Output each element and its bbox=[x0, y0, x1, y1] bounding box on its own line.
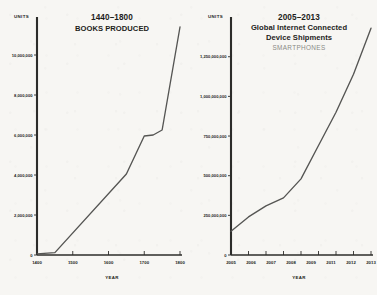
y-axis-tick-labels: 0250,000,000500,000,000750,000,0001,000,… bbox=[200, 54, 231, 257]
y-tick-label: 500,000,000 bbox=[203, 173, 227, 178]
x-tick-label: 2009 bbox=[306, 260, 316, 265]
y-tick-label: 8,000,000 bbox=[14, 93, 33, 98]
y-tick-label: 1,000,000,000 bbox=[200, 94, 227, 99]
y-tick-label: 0 bbox=[224, 253, 227, 258]
plot-area bbox=[37, 17, 182, 255]
x-tick-label: 2005 bbox=[226, 260, 236, 265]
chart-subtitle-line-1: Global Internet Connected bbox=[250, 23, 346, 32]
y-tick-label: 10,000,000 bbox=[12, 53, 33, 58]
y-tick-label: 2,000,000 bbox=[14, 213, 33, 218]
x-tick-label: 2012 bbox=[346, 260, 356, 265]
y-tick-label: 4,000,000 bbox=[14, 173, 33, 178]
series-line-0 bbox=[37, 27, 180, 254]
x-axis-tick-labels: 20052006200720082009201120122013 bbox=[226, 251, 376, 265]
x-tick-label: 1400 bbox=[32, 260, 42, 265]
chart-title: 1440–1800 bbox=[91, 13, 133, 22]
device-shipments-chart: UNITS 2005–2013 Global Internet Connecte… bbox=[189, 0, 377, 295]
chart-pair-container: UNITS 1440–1800 BOOKS PRODUCED 02,000,00… bbox=[0, 0, 377, 295]
chart-panel-books-produced: UNITS 1440–1800 BOOKS PRODUCED 02,000,00… bbox=[0, 0, 189, 295]
y-axis-caption: UNITS bbox=[208, 14, 223, 19]
x-tick-label: 2013 bbox=[366, 260, 376, 265]
y-tick-label: 6,000,000 bbox=[14, 133, 33, 138]
chart-title: 2005–2013 bbox=[278, 13, 320, 22]
y-tick-label: 250,000,000 bbox=[203, 213, 227, 218]
x-tick-label: 1800 bbox=[175, 260, 185, 265]
chart-series-caption: SMARTPHONES bbox=[272, 44, 325, 51]
books-produced-chart: UNITS 1440–1800 BOOKS PRODUCED 02,000,00… bbox=[0, 0, 189, 295]
series-line-0 bbox=[231, 28, 371, 231]
x-tick-label: 2007 bbox=[266, 260, 276, 265]
y-tick-label: 750,000,000 bbox=[203, 134, 227, 139]
x-tick-label: 1500 bbox=[68, 260, 78, 265]
x-tick-label: 1700 bbox=[139, 260, 149, 265]
x-tick-label: 2011 bbox=[326, 260, 336, 265]
x-tick-label: 2008 bbox=[286, 260, 296, 265]
chart-panel-device-shipments: UNITS 2005–2013 Global Internet Connecte… bbox=[189, 0, 377, 295]
x-axis-caption: YEAR bbox=[292, 275, 306, 280]
plot-area bbox=[231, 17, 373, 255]
y-tick-label: 0 bbox=[30, 253, 33, 258]
x-tick-label: 1600 bbox=[104, 260, 114, 265]
y-axis-tick-labels: 02,000,0004,000,0006,000,0008,000,00010,… bbox=[12, 53, 37, 258]
x-axis-caption: YEAR bbox=[105, 275, 119, 280]
chart-subtitle-line-2: Device Shipments bbox=[265, 33, 331, 42]
chart-subtitle: BOOKS PRODUCED bbox=[75, 24, 150, 33]
y-tick-label: 1,250,000,000 bbox=[200, 54, 227, 59]
y-axis-caption: UNITS bbox=[14, 14, 29, 19]
x-tick-label: 2006 bbox=[246, 260, 256, 265]
